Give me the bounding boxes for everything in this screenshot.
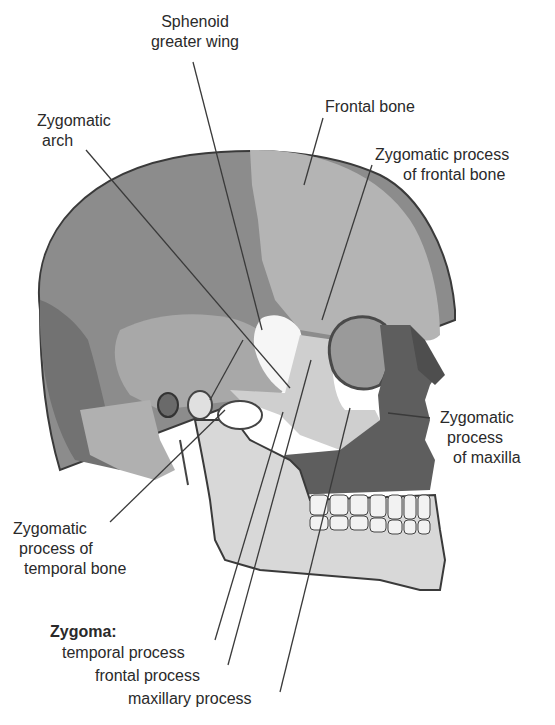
- label-line: process: [440, 428, 521, 448]
- label-line: Zygomatic: [37, 111, 111, 131]
- skull-illustration: [0, 0, 555, 725]
- label-line: Zygomatic: [13, 519, 126, 539]
- label-line: of frontal bone: [375, 165, 509, 185]
- label-line: greater wing: [120, 32, 270, 52]
- label-frontal-bone: Frontal bone: [325, 97, 415, 117]
- label-line: temporal bone: [13, 559, 126, 579]
- label-zygoma-temporal-process: temporal process: [62, 643, 185, 663]
- label-line: Sphenoid: [120, 12, 270, 32]
- label-line: arch: [37, 131, 111, 151]
- label-line: of maxilla: [440, 448, 521, 468]
- label-line: process of: [13, 539, 126, 559]
- mandibular-condyle: [188, 391, 212, 419]
- external-acoustic-meatus: [158, 393, 178, 417]
- label-zygomatic-process-of-frontal-bone: Zygomatic process of frontal bone: [375, 145, 509, 185]
- label-sphenoid-greater-wing: Sphenoid greater wing: [120, 12, 270, 52]
- label-zygomatic-arch: Zygomatic arch: [37, 111, 111, 151]
- label-zygoma-maxillary-process: maxillary process: [128, 689, 252, 709]
- label-line: Zygomatic: [440, 408, 521, 428]
- label-zygomatic-process-of-temporal-bone: Zygomatic process of temporal bone: [13, 519, 126, 579]
- label-zygoma-frontal-process: frontal process: [95, 666, 200, 686]
- label-zygomatic-process-of-maxilla: Zygomatic process of maxilla: [440, 408, 521, 468]
- mandibular-notch: [218, 401, 262, 429]
- skull-diagram: Sphenoid greater wing Zygomatic arch Fro…: [0, 0, 555, 725]
- label-zygoma-heading: Zygoma:: [50, 622, 117, 642]
- label-line: Zygomatic process: [375, 145, 509, 165]
